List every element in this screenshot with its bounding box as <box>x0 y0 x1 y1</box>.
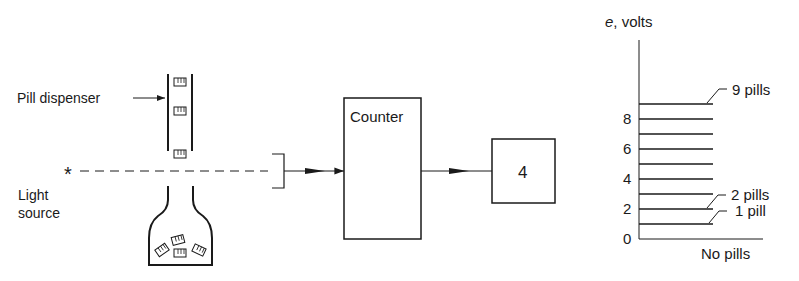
y-axis-label: e, volts <box>605 13 653 30</box>
counter-label: Counter <box>350 108 403 125</box>
nine-pills-label: 9 pills <box>732 81 770 98</box>
two-pills-leader <box>707 195 726 208</box>
light-source-label-line2: source <box>18 205 60 221</box>
pill-icon <box>171 235 185 246</box>
voltage-levels <box>639 104 713 224</box>
voltage-chart: e, volts 0 2 4 6 8 9 pills 2 p <box>605 13 770 262</box>
nine-pills-leader <box>707 89 727 103</box>
y-tick: 6 <box>623 140 631 157</box>
one-pill-label: 1 pill <box>735 202 766 219</box>
y-tick: 4 <box>623 170 631 187</box>
pill-dispenser-label: Pill dispenser <box>17 90 101 106</box>
pill-icon <box>174 107 186 115</box>
pill-icon <box>174 150 186 158</box>
pill-icon <box>192 244 206 256</box>
pill-icon <box>155 243 169 256</box>
arrowhead-icon <box>449 168 469 174</box>
y-tick: 2 <box>623 200 631 217</box>
two-pills-label: 2 pills <box>731 186 769 203</box>
y-ticks: 0 2 4 6 8 <box>623 110 631 247</box>
light-source-label-line1: Light <box>18 187 48 203</box>
no-pills-label: No pills <box>701 245 750 262</box>
light-star-icon: * <box>64 163 72 185</box>
pill-icon <box>174 249 186 257</box>
arrowhead-icon <box>305 168 325 174</box>
display-value: 4 <box>518 163 527 182</box>
one-pill-leader <box>709 211 727 223</box>
pill-counter-diagram: Pill dispenser * Light source Counter 4 … <box>0 0 799 281</box>
pill-icon <box>174 78 186 86</box>
y-tick: 8 <box>623 110 631 127</box>
y-tick: 0 <box>623 230 631 247</box>
